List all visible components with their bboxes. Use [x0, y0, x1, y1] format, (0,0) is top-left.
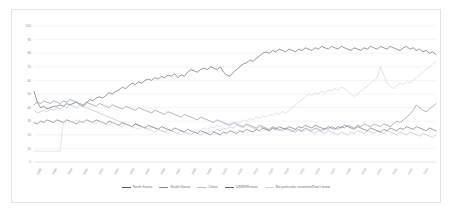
y-tick-label: 0 — [29, 160, 31, 164]
legend-color-swatch — [122, 187, 131, 188]
y-tick-label: 100 — [26, 24, 31, 28]
x-tick-label: 2004 — [283, 167, 290, 175]
x-tick-label: 1991 — [82, 167, 89, 175]
y-tick-label: 10 — [28, 147, 32, 151]
legend-label: China — [208, 185, 217, 189]
x-tick-label: 1989 — [51, 167, 58, 175]
legend-item[interactable]: China — [197, 185, 217, 189]
legend-color-swatch — [265, 187, 274, 188]
legend-item[interactable]: North Korea — [122, 185, 152, 189]
legend-item[interactable]: USSR/Russia — [225, 185, 258, 189]
x-tick-label: 2010 — [376, 167, 383, 175]
x-tick-label: 1997 — [175, 167, 182, 175]
y-tick-label: 20 — [28, 133, 32, 137]
chart-card: 0102030405060708090100 19881989199019911… — [11, 9, 441, 203]
chart-legend: North KoreaSouth KoreaChinaUSSR/RussiaNo… — [12, 185, 440, 189]
x-tick-label: 2006 — [314, 167, 321, 175]
x-tick-label: 1994 — [128, 167, 135, 175]
legend-item[interactable]: No particular countries/Don't know — [265, 185, 331, 189]
x-tick-label: 2008 — [345, 167, 352, 175]
legend-color-swatch — [159, 187, 168, 188]
x-tick-label: 2002 — [252, 167, 259, 175]
y-tick-label: 90 — [28, 38, 32, 42]
y-tick-label: 40 — [28, 106, 32, 110]
series-line — [34, 99, 436, 132]
series-line — [34, 61, 436, 151]
legend-label: USSR/Russia — [236, 185, 258, 189]
x-tick-label: 1996 — [159, 167, 166, 175]
series-lines — [34, 46, 436, 151]
series-line — [34, 120, 436, 135]
x-tick-label: 1995 — [144, 167, 151, 175]
legend-color-swatch — [225, 187, 234, 188]
x-tick-label: 1990 — [67, 167, 74, 175]
legend-item[interactable]: South Korea — [159, 185, 190, 189]
x-tick-label: 2001 — [237, 167, 244, 175]
x-axis-tick-labels: 1988198919901991199219931994199519961997… — [36, 167, 430, 175]
y-tick-label: 80 — [28, 51, 32, 55]
y-axis-tick-labels: 0102030405060708090100 — [26, 24, 31, 164]
series-line — [34, 46, 436, 109]
x-tick-label: 1988 — [36, 167, 43, 175]
gridlines — [34, 26, 436, 162]
x-tick-label: 1993 — [113, 167, 120, 175]
legend-label: South Korea — [170, 185, 190, 189]
x-tick-label: 2000 — [221, 167, 228, 175]
x-tick-label: 2003 — [268, 167, 275, 175]
x-tick-label: 2011 — [391, 167, 398, 175]
x-tick-label: 2005 — [299, 167, 306, 175]
y-tick-label: 70 — [28, 65, 32, 69]
x-tick-label: 2012 — [407, 167, 414, 175]
x-tick-label: 1999 — [206, 167, 213, 175]
x-tick-label: 2009 — [360, 167, 367, 175]
legend-label: No particular countries/Don't know — [276, 185, 331, 189]
x-tick-label: 1998 — [190, 167, 197, 175]
x-tick-label: 2007 — [329, 167, 336, 175]
y-tick-label: 60 — [28, 79, 32, 83]
x-tick-label: 1992 — [98, 167, 105, 175]
line-chart: 0102030405060708090100 19881989199019911… — [12, 10, 442, 204]
chart-plot-area: 0102030405060708090100 19881989199019911… — [12, 10, 440, 202]
x-tick-label: 2013 — [422, 167, 429, 175]
y-tick-label: 50 — [28, 92, 32, 96]
y-tick-label: 30 — [28, 119, 32, 123]
legend-color-swatch — [197, 187, 206, 188]
legend-label: North Korea — [133, 185, 152, 189]
